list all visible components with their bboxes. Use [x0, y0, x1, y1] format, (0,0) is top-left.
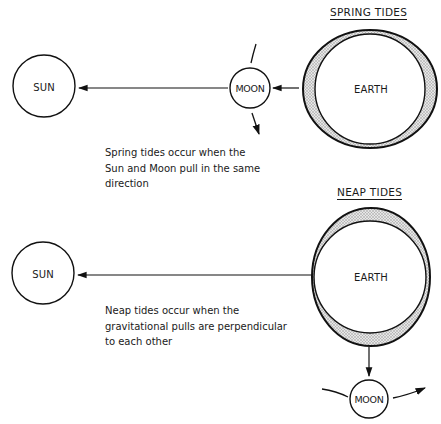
spring-sun-label: SUN: [33, 82, 55, 93]
neap-caption-line: to each other: [105, 334, 305, 350]
neap-sun-label: SUN: [32, 269, 54, 280]
spring-caption-line: direction: [105, 176, 305, 192]
neap-moon-label: MOON: [354, 394, 383, 405]
tides-diagram: [0, 0, 441, 424]
neap-moon-orbit-arrow: [393, 388, 425, 398]
neap-tides-title: NEAP TIDES: [337, 186, 402, 200]
neap-earth-label: EARTH: [354, 272, 388, 283]
neap-caption-line: gravitational pulls are perpendicular: [105, 319, 305, 335]
neap-caption: Neap tides occur when the gravitational …: [105, 303, 305, 350]
spring-moon-orbit-line: [251, 44, 256, 63]
neap-caption-line: Neap tides occur when the: [105, 303, 305, 319]
spring-tides-title: SPRING TIDES: [330, 6, 407, 20]
neap-moon-orbit-line: [322, 389, 348, 397]
spring-moon-label: MOON: [235, 83, 264, 94]
spring-earth-label: EARTH: [354, 84, 388, 95]
spring-caption-line: Sun and Moon pull in the same: [105, 161, 305, 177]
spring-caption-line: Spring tides occur when the: [105, 145, 305, 161]
spring-moon-orbit-arrow: [252, 113, 259, 134]
spring-caption: Spring tides occur when the Sun and Moon…: [105, 145, 305, 192]
